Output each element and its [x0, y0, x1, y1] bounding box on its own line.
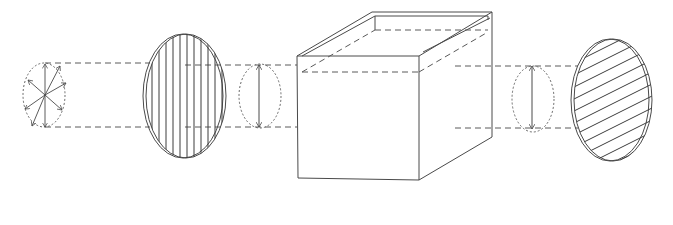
- beam-guide-lines: [45, 63, 578, 128]
- unpolarized-light-icon: [23, 63, 66, 127]
- polarimeter-diagram: [0, 0, 673, 225]
- polarizer-disc: [143, 30, 226, 165]
- sample-cell-box: [297, 12, 492, 180]
- polarized-light-icon-1: [239, 64, 281, 128]
- polarized-light-icon-2: [512, 66, 554, 132]
- analyzer-disc: [560, 8, 660, 190]
